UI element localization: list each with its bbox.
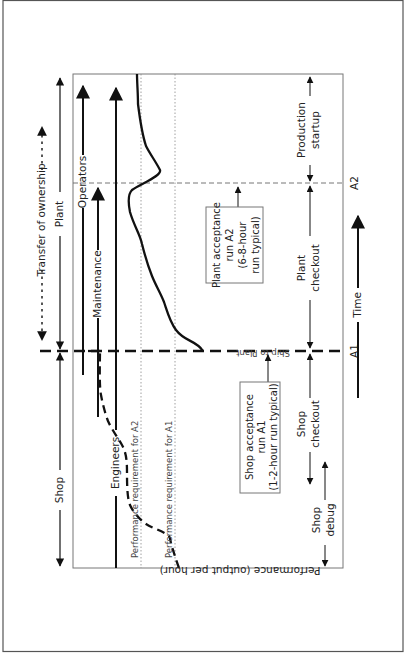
req-a1-label: Performance requirement for A1 (164, 421, 174, 558)
time-axis-label: Time (351, 292, 363, 319)
shop-label: Shop (53, 476, 65, 503)
plant-checkout-line-2: checkout (309, 244, 321, 292)
shop-checkout-line-2: checkout (309, 400, 321, 448)
plant-acceptance-line-2: run A2 (224, 228, 235, 261)
operators-label: Operators (76, 156, 88, 208)
engineers-label: Engineers (109, 437, 121, 489)
shop-acceptance-line-2: run A1 (256, 420, 267, 453)
shop-checkout-line-1: Shop (295, 410, 307, 437)
transfer-of-ownership-label: Transfer of ownership (35, 163, 47, 278)
y-axis-label: Performance (output per hour) (160, 565, 321, 577)
a2-label: A2 (348, 176, 360, 190)
plant-acceptance-line-3: (6-8-hour (237, 221, 248, 269)
plant-label: Plant (53, 201, 65, 227)
shop-debug-line-2: debug (324, 503, 336, 536)
shop-debug-line-1: Shop (310, 506, 322, 533)
plant-performance-curve (129, 74, 203, 351)
shop-acceptance-line-3: (1-2-hour run typical) (268, 383, 279, 490)
req-a2-label: Performance requirement for A2 (130, 421, 140, 558)
production-startup-line-2: startup (309, 111, 321, 149)
plant-acceptance-line-1: Plant acceptance (211, 202, 222, 288)
ship-to-plant-label: Ship to Plant (235, 348, 290, 358)
plant-checkout-line-1: Plant (295, 255, 307, 281)
diagram-canvas: Performance (output per hour) Transfer o… (0, 0, 408, 653)
production-startup-line-1: Production (295, 102, 307, 158)
shop-acceptance-line-1: Shop acceptance (244, 394, 255, 480)
plant-acceptance-line-4: run typical) (250, 216, 261, 273)
maintenance-label: Maintenance (91, 250, 103, 318)
